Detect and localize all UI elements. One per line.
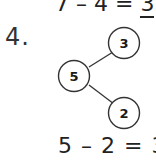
bond-line-bottom [89,85,114,104]
subtraction-equation: 5 – 2 = 3 [58,133,156,158]
bond-line-top [89,52,113,67]
whole-value: 5 [69,69,78,84]
part-bottom-circle: 2 [109,98,140,129]
part-top-value: 3 [119,36,128,51]
part-bottom-value: 2 [119,106,128,121]
part-top-circle: 3 [109,28,140,59]
whole-circle: 5 [59,61,90,92]
